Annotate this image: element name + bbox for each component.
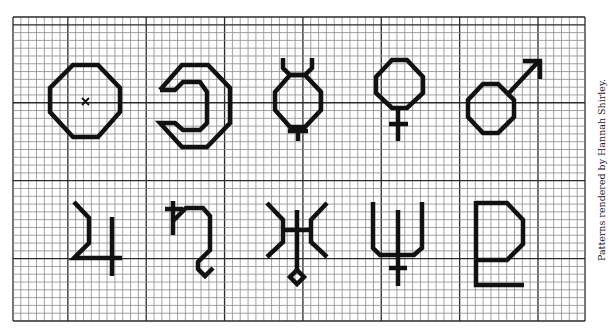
credit-text: Patterns rendered by Hannah Shirley.	[596, 79, 607, 261]
cross-stitch-chart	[0, 0, 616, 332]
